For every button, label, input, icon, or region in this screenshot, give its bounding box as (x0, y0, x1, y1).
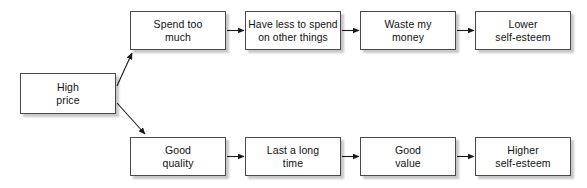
edge-high-price-to-good-quality (117, 103, 145, 134)
node-label: Good quality (160, 144, 195, 170)
node-lower-self-esteem[interactable]: Lower self-esteem (475, 11, 571, 50)
edge-high-price-to-spend-too-much (117, 53, 132, 86)
node-label: Have less to spend on other things (246, 18, 339, 44)
node-high-price[interactable]: High price (20, 73, 116, 114)
node-label: Higher self-esteem (493, 144, 552, 170)
node-label: Last a long time (265, 144, 321, 170)
node-label: Waste my money (382, 18, 433, 44)
node-higher-self-esteem[interactable]: Higher self-esteem (475, 137, 571, 176)
node-waste-my-money[interactable]: Waste my money (360, 11, 456, 50)
node-spend-too-much[interactable]: Spend too much (130, 11, 226, 50)
flowchart-canvas: High price Spend too much Have less to s… (0, 0, 587, 188)
node-good-quality[interactable]: Good quality (130, 137, 226, 176)
node-have-less-to-spend[interactable]: Have less to spend on other things (245, 11, 341, 50)
node-label: Spend too much (152, 18, 205, 44)
node-label: Good value (393, 144, 423, 170)
node-last-a-long-time[interactable]: Last a long time (245, 137, 341, 176)
node-good-value[interactable]: Good value (360, 137, 456, 176)
node-label: Lower self-esteem (493, 18, 552, 44)
node-label: High price (54, 81, 81, 107)
